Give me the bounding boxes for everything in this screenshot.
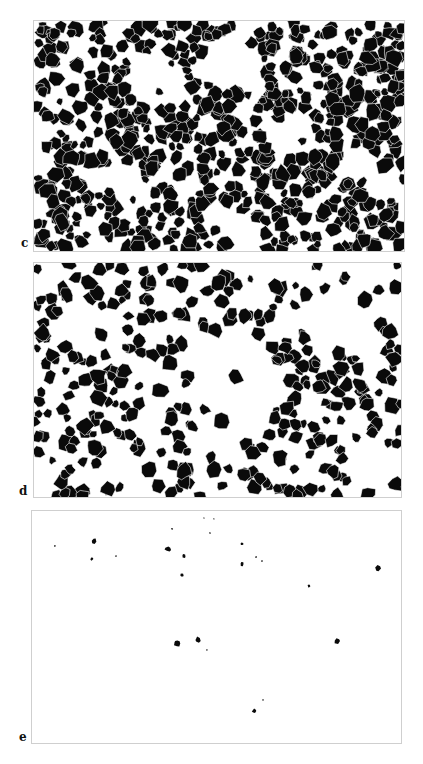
micrograph-panel-e — [31, 510, 402, 744]
micrograph-panel-c — [33, 20, 405, 252]
panel-label-d: d — [19, 484, 27, 498]
panel-label-e: e — [19, 730, 27, 744]
micrograph-image-d — [34, 263, 401, 497]
panel-label-c: c — [21, 236, 28, 250]
micrograph-image-e — [32, 511, 401, 743]
micrograph-panel-d — [33, 262, 402, 498]
micrograph-image-c — [34, 21, 404, 251]
